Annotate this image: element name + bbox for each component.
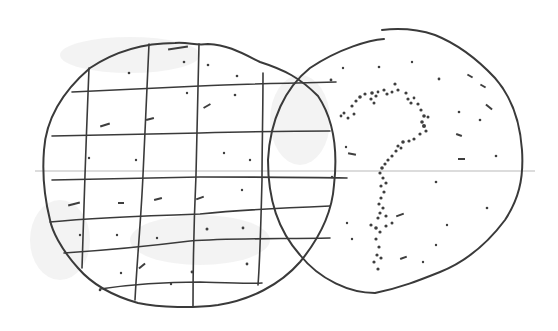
grid-circle [43, 43, 347, 307]
paper-smudges [30, 37, 330, 280]
grid-horizontal-line [52, 177, 347, 180]
grid-vertical-line [193, 44, 199, 306]
grid-vertical-line [135, 44, 149, 300]
sketch-canvas [0, 0, 558, 331]
question-circle-specks [330, 61, 498, 263]
dotted-question-mark [340, 82, 430, 270]
grid-horizontal-line [100, 282, 262, 289]
